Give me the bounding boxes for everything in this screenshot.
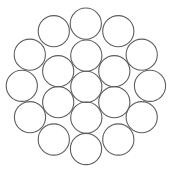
strand-cross-section-diagram bbox=[0, 0, 172, 173]
strand-circle-inner-bottom bbox=[71, 102, 102, 133]
strand-circle-outer-left-lower bbox=[14, 102, 45, 133]
strand-circle-outer-right-lower bbox=[126, 102, 157, 133]
strand-circle-inner-top bbox=[71, 40, 102, 71]
strand-circle-inner-lower-right bbox=[99, 87, 130, 118]
strand-circle-outer-left bbox=[6, 70, 37, 101]
strand-circle-outer-bottom bbox=[70, 133, 101, 164]
strand-circle-outer-top-left bbox=[38, 16, 69, 47]
strand-circle-outer-right-upper bbox=[126, 39, 157, 70]
strand-circle-outer-left-upper bbox=[14, 39, 45, 70]
strand-circle-center bbox=[71, 71, 102, 102]
strand-circle-outer-top bbox=[70, 8, 101, 39]
strand-circle-outer-right bbox=[134, 70, 165, 101]
strand-circle-inner-upper-right bbox=[99, 56, 130, 87]
strand-circle-outer-bottom-right bbox=[103, 124, 134, 155]
strand-circle-inner-lower-left bbox=[43, 87, 74, 118]
strand-circle-outer-top-right bbox=[103, 16, 134, 47]
strand-circle-outer-bottom-left bbox=[38, 124, 69, 155]
strand-group bbox=[6, 8, 165, 165]
strand-circle-inner-upper-left bbox=[43, 56, 74, 87]
